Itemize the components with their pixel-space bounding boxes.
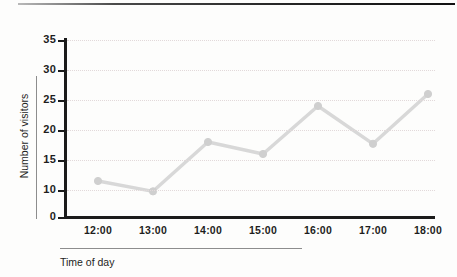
- y-axis-tick-label: 25: [16, 93, 56, 105]
- data-point-marker: [314, 102, 321, 109]
- y-axis-tick-label: 15: [16, 153, 56, 165]
- y-axis-tick-label: 35: [16, 33, 56, 45]
- x-axis-tick-label: 15:00: [233, 224, 293, 236]
- gridline: [67, 130, 435, 131]
- scan-edge-artifact: [18, 3, 455, 5]
- y-axis-tick: [58, 100, 65, 102]
- y-axis-tick-labels: 0101520253035: [8, 0, 56, 277]
- x-axis-tick-label: 18:00: [398, 224, 457, 236]
- gridline: [67, 40, 435, 41]
- x-axis-tick-label: 13:00: [123, 224, 183, 236]
- x-axis-title-rule: [60, 248, 302, 249]
- gridline: [67, 190, 435, 191]
- y-axis-tick: [58, 217, 65, 219]
- data-point-marker: [369, 140, 376, 147]
- data-point-marker: [204, 138, 211, 145]
- series-polyline: [98, 94, 428, 191]
- gridline: [67, 70, 435, 71]
- y-axis-tick-label: 30: [16, 63, 56, 75]
- plot-area: [67, 40, 435, 217]
- data-point-marker: [424, 90, 431, 97]
- y-axis-tick-label: 10: [16, 183, 56, 195]
- x-axis-tick-label: 14:00: [178, 224, 238, 236]
- x-axis-tick-label: 17:00: [343, 224, 403, 236]
- y-axis-tick-label: 20: [16, 123, 56, 135]
- x-axis-tick-label: 12:00: [68, 224, 128, 236]
- y-axis-tick: [58, 70, 65, 72]
- data-point-marker: [94, 177, 101, 184]
- y-axis-tick: [58, 40, 65, 42]
- y-axis-tick: [58, 130, 65, 132]
- gridline: [67, 100, 435, 101]
- gridline: [67, 160, 435, 161]
- x-axis-tick-label: 16:00: [288, 224, 348, 236]
- y-axis-tick: [58, 160, 65, 162]
- y-axis-tick: [58, 190, 65, 192]
- y-axis-tick-label: 0: [16, 210, 56, 222]
- chart-page: Number of visitors 0101520253035 12:0013…: [0, 0, 457, 277]
- data-point-marker: [149, 188, 156, 195]
- data-point-marker: [259, 150, 266, 157]
- x-axis-title: Time of day: [60, 256, 114, 268]
- x-axis-tick-labels: 12:0013:0014:0015:0016:0017:0018:00: [67, 224, 435, 240]
